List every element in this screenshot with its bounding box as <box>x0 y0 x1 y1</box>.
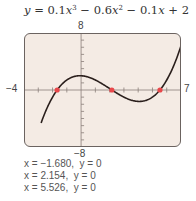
zero-result-1: x = −1.680, y = 0 <box>24 158 102 170</box>
equation-title: y = 0.1x3 − 0.6x2 − 0.1x + 2 <box>24 3 189 17</box>
zeros-results: x = −1.680, y = 0 x = 2.154, y = 0 x = 5… <box>24 158 102 194</box>
equation-part: + 2 <box>165 3 189 17</box>
equation-part: − 0.6 <box>77 3 112 17</box>
graph-screen <box>24 33 181 147</box>
zero-marker-icon <box>54 87 59 92</box>
zero-result-3: x = 5.526, y = 0 <box>24 182 102 194</box>
plot-area <box>24 33 181 147</box>
x-min-label: −4 <box>6 84 17 94</box>
equation-part: = 0.1 <box>31 3 66 17</box>
function-curve <box>41 45 181 122</box>
equation-part: − 0.1 <box>123 3 158 17</box>
zero-marker-icon <box>157 87 162 92</box>
y-max-label: 8 <box>78 21 84 31</box>
zero-result-2: x = 2.154, y = 0 <box>24 170 102 182</box>
zero-marker-icon <box>109 87 114 92</box>
x-max-label: 7 <box>184 84 190 94</box>
